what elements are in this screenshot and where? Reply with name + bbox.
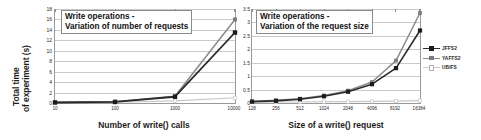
y-tick-label: 3 xyxy=(228,20,250,25)
y-tick-label: 8 xyxy=(30,59,52,64)
y-axis-title-line1: Total time xyxy=(11,67,21,106)
chart-title-left-line1: Write operations - xyxy=(65,12,188,22)
legend-swatch-jffs2 xyxy=(423,45,440,52)
y-tick-label: 16 xyxy=(30,17,52,22)
chart-title-right-line2: Variation of the request size xyxy=(260,22,369,32)
open-square-icon xyxy=(429,65,434,70)
filled-square-icon xyxy=(429,56,434,61)
y-tick-label: 1.5 xyxy=(228,61,250,66)
y-tick-label: 3.5 xyxy=(228,7,250,12)
x-tick-label: 100 xyxy=(100,106,130,111)
legend: JFFS2 YAFFS2 UBIFS xyxy=(423,45,461,71)
legend-swatch-yaffs2 xyxy=(423,55,440,62)
y-tick-label: 14 xyxy=(30,28,52,33)
y-tick-label: 6 xyxy=(30,70,52,75)
filled-square-icon xyxy=(429,46,434,51)
y-tick-label: 10 xyxy=(30,49,52,54)
chart-title-right-line1: Write operations - xyxy=(260,12,369,22)
chart-panel-left: Total time of experiment (s) Write opera… xyxy=(0,0,240,140)
chart-panel-right: Write operations - Variation of the requ… xyxy=(240,0,481,140)
y-tick-label: 18 xyxy=(30,7,52,12)
y-tick-label: 12 xyxy=(30,38,52,43)
legend-label-ubifs: UBIFS xyxy=(442,65,457,70)
y-tick-label: 0 xyxy=(30,101,52,106)
y-tick-label: 1 xyxy=(228,74,250,79)
legend-label-yaffs2: YAFFS2 xyxy=(442,56,461,61)
x-tick-label: 1000 xyxy=(160,106,190,111)
y-tick-label: 0 xyxy=(228,101,250,106)
legend-label-jffs2: JFFS2 xyxy=(442,46,457,51)
x-tick-label: 16384 xyxy=(404,106,434,111)
chart-title-left-line2: Variation of number of requests xyxy=(65,22,188,32)
y-tick-label: 2 xyxy=(228,47,250,52)
legend-item-yaffs2[interactable]: YAFFS2 xyxy=(423,55,461,62)
legend-item-ubifs[interactable]: UBIFS xyxy=(423,64,461,71)
chart-title-right: Write operations - Variation of the requ… xyxy=(256,10,373,34)
legend-swatch-ubifs xyxy=(423,64,440,71)
y-tick-label: 0.5 xyxy=(228,88,250,93)
chart-title-left: Write operations - Variation of number o… xyxy=(61,10,192,34)
legend-item-jffs2[interactable]: JFFS2 xyxy=(423,45,461,52)
y-tick-label: 2.5 xyxy=(228,34,250,39)
y-tick-label: 4 xyxy=(30,80,52,85)
figure-two-line-charts: Total time of experiment (s) Write opera… xyxy=(0,0,481,140)
x-axis-title-right: Size of a write() request xyxy=(246,120,426,130)
y-tick-label: 2 xyxy=(30,91,52,96)
x-tick-label: 10 xyxy=(40,106,70,111)
x-axis-title-left: Number of write() calls xyxy=(54,120,234,130)
series-jffs2-left xyxy=(53,30,237,104)
